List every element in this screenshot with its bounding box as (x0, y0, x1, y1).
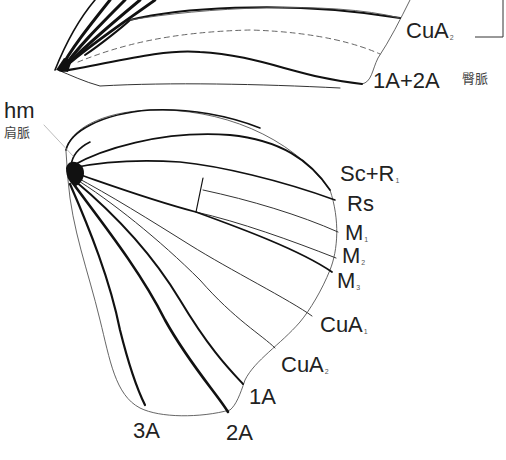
label-forewing-cua2: CuA2 (406, 20, 454, 42)
label-subscript: 1 (364, 328, 368, 335)
label-subscript: 1 (364, 236, 368, 243)
label-subscript: 1 (395, 177, 399, 184)
label-subscript: 2 (325, 368, 329, 375)
forewing (55, 0, 410, 88)
label-text: Sc+R (340, 161, 394, 186)
label-text: 1A (249, 384, 276, 409)
label-text: Rs (347, 191, 374, 216)
label-scr1: Sc+R1 (340, 163, 399, 185)
label-subscript: 2 (450, 34, 454, 41)
label-text: CuA (406, 18, 449, 43)
label-3a: 3A (133, 420, 160, 442)
label-forewing-1a2a: 1A+2A (373, 70, 440, 92)
label-subscript: 2 (361, 259, 365, 266)
label-text: 3A (133, 418, 160, 443)
label-m2: M2 (342, 245, 365, 267)
label-cua2: CuA2 (281, 354, 329, 376)
label-2a: 2A (226, 422, 253, 444)
label-anal-vein-chinese: 臀脈 (462, 72, 488, 85)
label-1a: 1A (249, 386, 276, 408)
label-text: M (337, 268, 355, 293)
label-rs: Rs (347, 193, 374, 215)
label-text: CuA (320, 312, 363, 337)
label-humeral-vein-chinese: 肩脈 (4, 126, 30, 139)
label-text: M (345, 220, 363, 245)
label-hm: hm (4, 100, 35, 122)
label-m3: M3 (337, 270, 360, 292)
label-text: M (342, 243, 360, 268)
label-cua1: CuA1 (320, 314, 368, 336)
label-text: 1A+2A (373, 68, 440, 93)
label-text: CuA (281, 352, 324, 377)
bracket-line (475, 0, 503, 37)
label-subscript: 3 (356, 284, 360, 291)
label-m1: M1 (345, 222, 368, 244)
label-text: 2A (226, 420, 253, 445)
